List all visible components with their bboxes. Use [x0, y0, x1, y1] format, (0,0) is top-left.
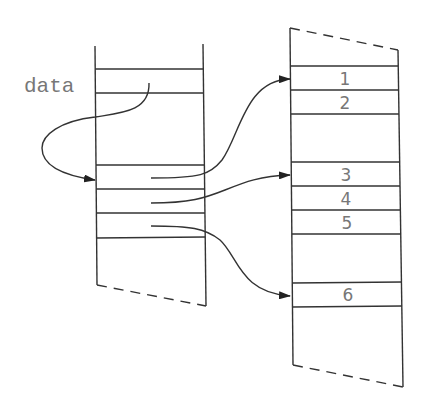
- right-stack-top-dashed: [290, 28, 398, 50]
- slot-label-6: 6: [343, 285, 354, 305]
- left-stack-bottom-dashed: [97, 285, 206, 306]
- right-stack-left-edge: [290, 28, 293, 365]
- left-memory-stack: [95, 44, 206, 306]
- data-label: data: [24, 75, 74, 98]
- left-slot-divider: [96, 237, 205, 238]
- right-slot-divider: [292, 306, 402, 307]
- right-stack-right-edge: [398, 50, 403, 387]
- memory-diagram: data 1 2 3 4 5 6: [0, 0, 432, 412]
- right-slot-divider: [292, 282, 402, 283]
- slot-label-1: 1: [340, 69, 351, 89]
- slot-label-4: 4: [341, 189, 352, 209]
- right-stack-bottom-dashed: [293, 365, 403, 387]
- pointer-arrow-1: [151, 79, 290, 178]
- slot-label-3: 3: [341, 165, 352, 185]
- left-stack-right-edge: [203, 44, 206, 306]
- slot-label-2: 2: [340, 93, 351, 113]
- slot-label-5: 5: [342, 213, 353, 233]
- pointer-arrow-6: [151, 226, 290, 296]
